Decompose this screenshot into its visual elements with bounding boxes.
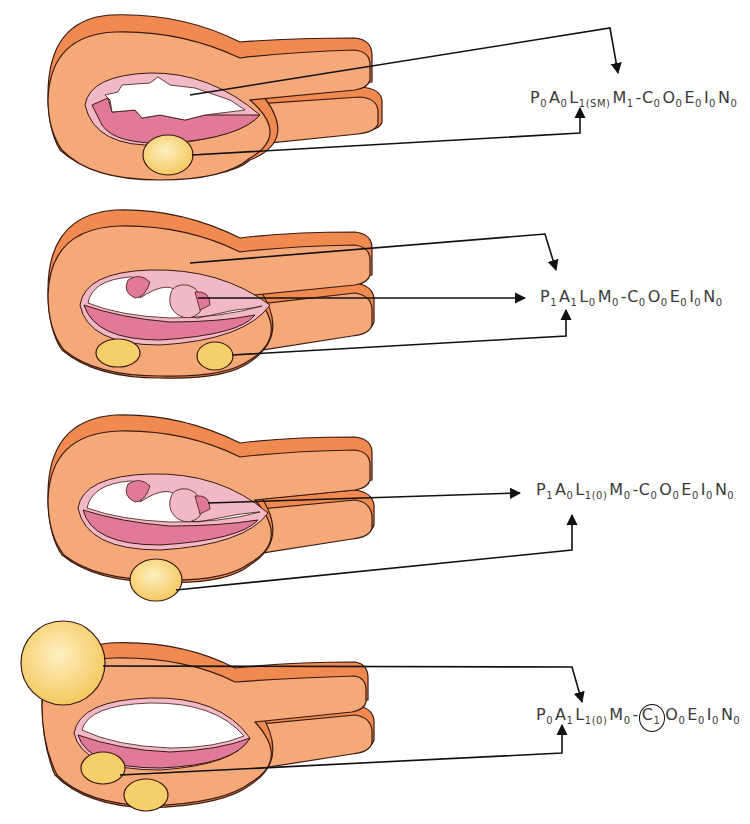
code-C: C0 <box>642 88 663 107</box>
classification-label-3: P1A0L1(0)M0-C0O0E0I0N0 <box>536 480 736 501</box>
code-O: O0 <box>648 287 670 306</box>
code-N: N0 <box>715 480 736 499</box>
code-M: M0 <box>598 287 621 306</box>
diagram-canvas <box>0 0 750 824</box>
code-I: I0 <box>701 480 715 499</box>
code-N: N0 <box>721 705 742 724</box>
code-L: L1(0) <box>575 480 609 499</box>
code-O: O0 <box>665 705 687 724</box>
code-M: M1 <box>612 88 635 107</box>
code-O: O0 <box>659 480 681 499</box>
code-N: N0 <box>718 88 739 107</box>
code-M: M0 <box>609 480 632 499</box>
separator: - <box>633 705 639 724</box>
code-C: C0 <box>627 287 648 306</box>
code-A: A1 <box>559 287 579 306</box>
code-E: E0 <box>684 88 703 107</box>
code-C-circled: C1 <box>639 704 666 732</box>
uterus-diagram-1 <box>48 15 382 180</box>
uterus-diagram-4 <box>21 621 374 811</box>
code-I: I0 <box>704 88 718 107</box>
code-A: A0 <box>555 480 575 499</box>
code-N: N0 <box>703 287 724 306</box>
code-I: I0 <box>707 705 721 724</box>
code-M: M0 <box>609 705 632 724</box>
code-C: C0 <box>639 480 660 499</box>
classification-label-1: P0A0L1(SM)M1-C0O0E0I0N0 <box>530 88 739 109</box>
code-P: P0 <box>530 88 549 107</box>
code-L: L1(SM) <box>569 88 612 107</box>
code-E: E0 <box>681 480 700 499</box>
code-P: P0 <box>536 705 555 724</box>
code-L: L0 <box>579 287 597 306</box>
code-A: A1 <box>555 705 575 724</box>
uterus-diagram-3 <box>48 415 374 601</box>
code-O: O0 <box>662 88 684 107</box>
code-I: I0 <box>689 287 703 306</box>
code-A: A0 <box>549 88 569 107</box>
uterus-diagram-2 <box>48 210 374 378</box>
code-L: L1(0) <box>575 705 609 724</box>
code-E: E0 <box>670 287 689 306</box>
code-P: P1 <box>540 287 559 306</box>
code-E: E0 <box>687 705 706 724</box>
classification-label-4: P0A1L1(0)M0-C1O0E0I0N0 <box>536 704 742 732</box>
code-P: P1 <box>536 480 555 499</box>
classification-label-2: P1A1L0M0-C0O0E0I0N0 <box>540 287 725 308</box>
